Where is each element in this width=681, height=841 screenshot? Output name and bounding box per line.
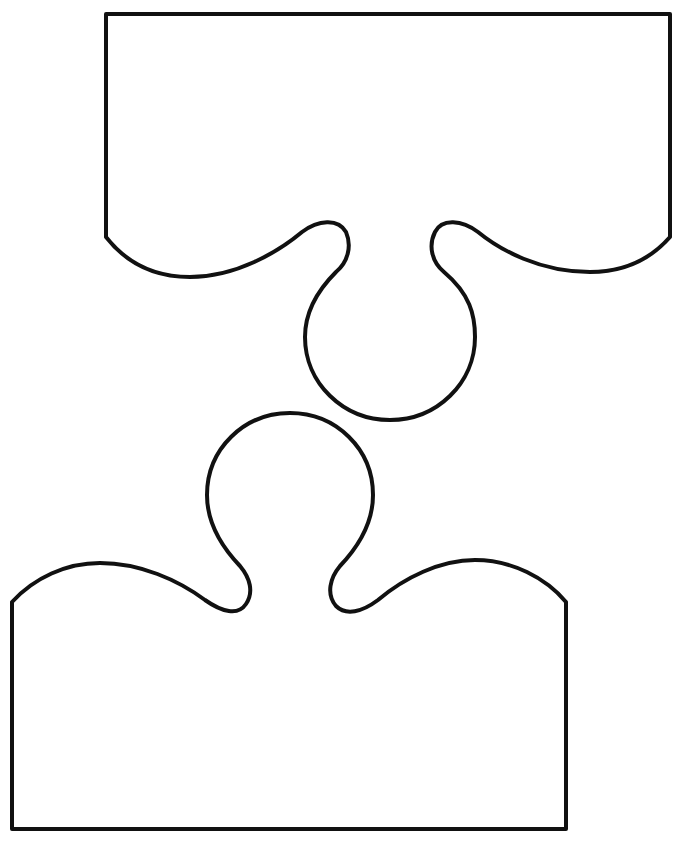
bottom-puzzle-piece [12,413,566,829]
top-puzzle-piece [106,14,670,420]
puzzle-canvas [0,0,681,841]
